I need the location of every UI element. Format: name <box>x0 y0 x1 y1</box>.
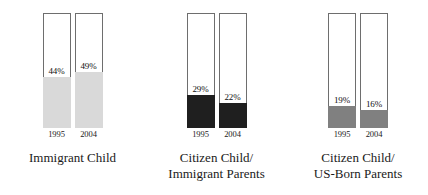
caption-line: Citizen Child/ <box>145 150 288 166</box>
year-label: 2004 <box>219 129 247 140</box>
bar-fill <box>328 106 356 128</box>
year-axis-labels: 1995 2004 <box>43 129 103 140</box>
bars-area: 44% 49% <box>0 13 145 128</box>
bar-fill <box>187 95 215 128</box>
group-caption: Citizen Child/ Immigrant Parents <box>145 150 288 182</box>
bar-value-label: 19% <box>334 95 350 105</box>
bar-value-label: 16% <box>366 99 382 109</box>
chart-group-citizen-child-immigrant-parents: 29% 22% 1995 2004 Citizen Child/ Immigra… <box>145 0 288 195</box>
caption-line: Immigrant Child <box>0 150 145 166</box>
bar-column: 19% <box>328 13 356 128</box>
year-label: 1995 <box>187 129 215 140</box>
bar-pair: 19% 16% <box>328 13 388 128</box>
bar-fill <box>43 77 71 128</box>
caption-line: US-Born Parents <box>288 166 428 182</box>
bar-fill <box>360 110 388 128</box>
bars-area: 29% 22% <box>145 13 288 128</box>
caption-line: Citizen Child/ <box>288 150 428 166</box>
bar-chart: 44% 49% 1995 2004 Immigrant Child <box>0 0 428 195</box>
chart-group-immigrant-child: 44% 49% 1995 2004 Immigrant Child <box>0 0 145 195</box>
bar-column: 16% <box>360 13 388 128</box>
bar-fill <box>219 103 247 128</box>
bar-pair: 44% 49% <box>43 13 103 128</box>
year-label: 2004 <box>75 129 103 140</box>
year-label: 1995 <box>328 129 356 140</box>
year-label: 2004 <box>360 129 388 140</box>
bar-column: 29% <box>187 13 215 128</box>
group-caption: Immigrant Child <box>0 150 145 166</box>
bar-fill <box>75 72 103 128</box>
bar-column: 22% <box>219 13 247 128</box>
bar-column: 44% <box>43 13 71 128</box>
bar-value-label: 22% <box>225 92 241 102</box>
bar-pair: 29% 22% <box>187 13 247 128</box>
bar-value-label: 49% <box>81 61 97 71</box>
bar-column: 49% <box>75 13 103 128</box>
bars-area: 19% 16% <box>288 13 428 128</box>
bar-value-label: 29% <box>193 84 209 94</box>
caption-line: Immigrant Parents <box>145 166 288 182</box>
chart-group-citizen-child-us-born-parents: 19% 16% 1995 2004 Citizen Child/ US-Born… <box>288 0 428 195</box>
year-axis-labels: 1995 2004 <box>328 129 388 140</box>
year-label: 1995 <box>43 129 71 140</box>
group-caption: Citizen Child/ US-Born Parents <box>288 150 428 182</box>
bar-value-label: 44% <box>49 66 65 76</box>
year-axis-labels: 1995 2004 <box>187 129 247 140</box>
